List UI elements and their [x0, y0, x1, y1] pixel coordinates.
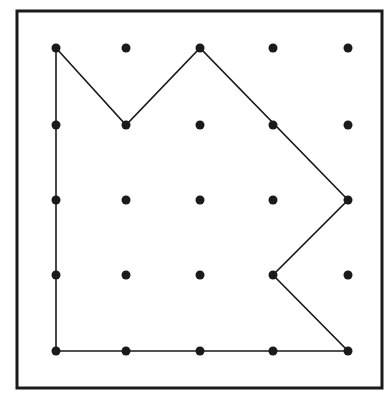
peg-dot: [269, 196, 278, 205]
peg-dot: [269, 347, 278, 356]
peg-dot: [269, 121, 278, 130]
peg-dot: [52, 347, 61, 356]
peg-dot: [196, 121, 205, 130]
peg-dot: [122, 347, 131, 356]
peg-dot: [344, 271, 353, 280]
peg-dot: [344, 196, 353, 205]
peg-dot: [52, 121, 61, 130]
peg-dot: [344, 121, 353, 130]
peg-dot: [52, 271, 61, 280]
peg-dot: [52, 44, 61, 53]
peg-dot: [196, 44, 205, 53]
peg-dot: [52, 196, 61, 205]
geoboard-diagram: [0, 0, 385, 403]
peg-dot: [122, 44, 131, 53]
peg-dot: [196, 196, 205, 205]
peg-dot: [122, 271, 131, 280]
peg-dot: [269, 44, 278, 53]
peg-dot: [269, 271, 278, 280]
peg-dot: [122, 196, 131, 205]
peg-dot: [344, 347, 353, 356]
peg-dot: [344, 44, 353, 53]
peg-dot: [122, 121, 131, 130]
peg-dot: [196, 271, 205, 280]
peg-dot: [196, 347, 205, 356]
